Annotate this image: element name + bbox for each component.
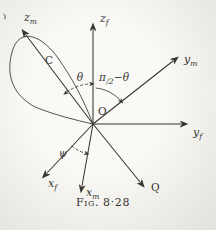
axis-label-zm: zm bbox=[23, 11, 37, 26]
axes-diagram: zf zm ym yf xf xm O C Q θ π/2−θ ψ Fig.8·… bbox=[0, 0, 216, 230]
angle-label-pi-half-minus-theta: π/2−θ bbox=[98, 71, 130, 86]
figure-caption: Fig.8·28 bbox=[76, 196, 130, 209]
vector-q-arrow bbox=[93, 124, 140, 182]
angle-arc-psi bbox=[72, 146, 85, 153]
scan-speck bbox=[4, 14, 5, 19]
axis-label-ym: ym bbox=[183, 53, 197, 68]
curve-label-c: C bbox=[45, 54, 53, 66]
axis-label-yf: yf bbox=[192, 126, 203, 141]
vector-q-label: Q bbox=[151, 181, 160, 193]
angle-arc-theta bbox=[67, 84, 90, 92]
angle-label-theta: θ bbox=[77, 71, 84, 83]
axis-label-xf: xf bbox=[48, 177, 58, 192]
scanned-figure-page: zf zm ym yf xf xm O C Q θ π/2−θ ψ Fig.8·… bbox=[0, 0, 216, 230]
angle-label-psi: ψ bbox=[59, 147, 68, 159]
axis-label-zf: zf bbox=[99, 12, 110, 27]
angle-arc-pi-half-minus-theta bbox=[96, 88, 120, 100]
origin-label: O bbox=[98, 105, 107, 117]
